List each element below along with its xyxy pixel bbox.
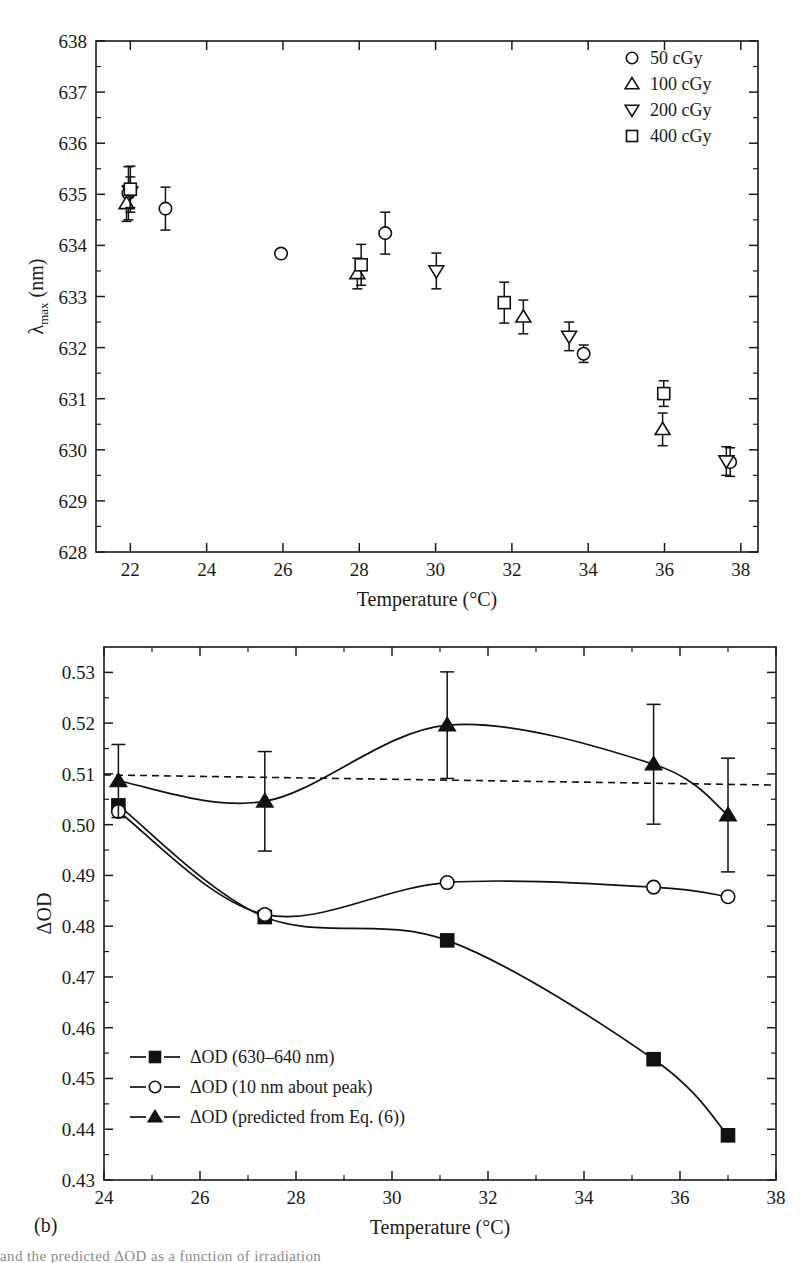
legend-marker-triangle-filled [148,1111,162,1122]
panel-a-series-50-cgy [122,167,736,477]
data-point-circle-open [258,908,272,922]
svg-text:ΔOD: ΔOD [33,893,55,935]
panel-b-reference-line [104,775,776,785]
data-point-square [355,259,367,271]
y-tick-label: 0.52 [62,713,95,734]
data-point-circle-open [440,876,454,890]
x-tick-label: 28 [350,559,369,580]
legend-label: ΔOD (630–640 nm) [190,1047,335,1068]
data-point-circle [275,247,287,259]
y-tick-label: 634 [59,235,88,256]
panel-b-y-axis-title: ΔOD [33,893,55,935]
x-tick-label: 24 [95,1187,115,1208]
x-tick-label: 24 [197,559,217,580]
x-tick-label: 34 [579,559,599,580]
legend-marker-square [627,131,638,142]
panel-a-y-axis-title: λmax (nm) [25,259,51,335]
figure-container: 222426283032343638Temperature (°C)628629… [0,0,809,1263]
data-point-triangle-down [429,266,444,278]
panel-a: 222426283032343638Temperature (°C)628629… [25,31,758,611]
panel-b-series-circle-open [112,805,735,922]
x-tick-label: 32 [479,1187,498,1208]
y-tick-label: 0.45 [62,1068,95,1089]
panel-b-x-axis-title: Temperature (°C) [370,1216,510,1239]
y-tick-label: 0.51 [62,764,95,785]
data-point-circle [379,227,391,239]
y-tick-label: 0.50 [62,815,95,836]
dashed-reference-line [104,775,776,785]
fitted-curve-circle-open [118,811,728,916]
data-point-square [124,183,136,195]
legend-label: 400 cGy [650,126,712,146]
y-tick-label: 635 [59,184,88,205]
data-point-circle [159,202,171,214]
x-tick-label: 38 [767,1187,786,1208]
data-point-triangle-up [516,310,531,322]
svg-text:λmax (nm): λmax (nm) [25,259,51,335]
y-tick-label: 0.44 [62,1119,96,1140]
data-point-square-filled [441,934,454,947]
y-tick-label: 632 [59,338,88,359]
legend-label: 100 cGy [650,74,712,94]
panel-a-y-axis: 628629630631632633634635636637638λmax (n… [25,31,758,563]
y-tick-label: 0.49 [62,865,95,886]
x-tick-label: 22 [121,559,140,580]
two-panel-figure: 222426283032343638Temperature (°C)628629… [0,0,809,1263]
caption-strip: and the predicted ΔOD as a function of i… [0,1248,809,1263]
panel-a-legend: 50 cGy100 cGy200 cGy400 cGy [625,48,711,146]
legend-marker-triangle-down [625,105,639,116]
legend-marker-circle-open [149,1081,160,1092]
data-point-square-filled [722,1129,735,1142]
y-tick-label: 0.47 [62,967,95,988]
panel-label-group: (b) [34,1214,57,1237]
panel-b-legend: ΔOD (630–640 nm)ΔOD (10 nm about peak)ΔO… [130,1047,405,1128]
panel-a-x-axis-title: Temperature (°C) [357,588,497,611]
x-tick-label: 28 [287,1187,306,1208]
y-tick-label: 0.48 [62,916,95,937]
x-tick-label: 26 [273,559,292,580]
data-point-square [498,297,510,309]
x-tick-label: 34 [575,1187,595,1208]
x-tick-label: 32 [502,559,521,580]
panel-b-data [110,672,736,1142]
panel-a-series-400-cgy [124,166,669,406]
panel-a-series-100-cgy [119,186,670,446]
panel-b-label: (b) [34,1214,57,1237]
y-tick-label: 0.43 [62,1170,95,1191]
y-tick-label: 628 [59,542,88,563]
y-tick-label: 0.53 [62,662,95,683]
legend-label: 200 cGy [650,100,712,120]
panel-a-series-200-cgy [123,177,734,475]
legend-label: 50 cGy [650,48,703,68]
caption-fragment: and the predicted ΔOD as a function of i… [0,1248,809,1263]
y-tick-label: 631 [59,389,88,410]
panel-b-plot-frame [104,647,776,1180]
data-point-circle-open [647,880,661,894]
legend-label: ΔOD (predicted from Eq. (6)) [190,1107,405,1128]
legend-marker-circle [626,52,637,63]
y-tick-label: 630 [59,440,88,461]
x-tick-label: 30 [383,1187,402,1208]
panel-b-series-triangle-filled [110,672,736,872]
y-tick-label: 633 [59,287,88,308]
y-tick-label: 0.46 [62,1018,95,1039]
x-tick-label: 36 [671,1187,690,1208]
x-tick-label: 26 [191,1187,210,1208]
data-point-circle [577,347,589,359]
data-point-triangle-filled [110,773,126,786]
data-point-triangle-up [655,422,670,434]
data-point-square [658,388,670,400]
y-tick-label: 638 [59,31,88,52]
y-tick-label: 629 [59,491,88,512]
data-point-circle-open [721,890,735,904]
data-point-square-filled [647,1053,660,1066]
x-tick-label: 30 [426,559,445,580]
x-tick-label: 36 [655,559,674,580]
fitted-curve-triangle-filled [118,724,728,815]
y-tick-label: 637 [59,82,88,103]
data-point-triangle-down [562,331,577,343]
legend-marker-triangle-up [625,78,639,89]
y-tick-label: 636 [59,133,88,154]
x-tick-label: 38 [731,559,750,580]
legend-label: ΔOD (10 nm about peak) [190,1077,373,1098]
